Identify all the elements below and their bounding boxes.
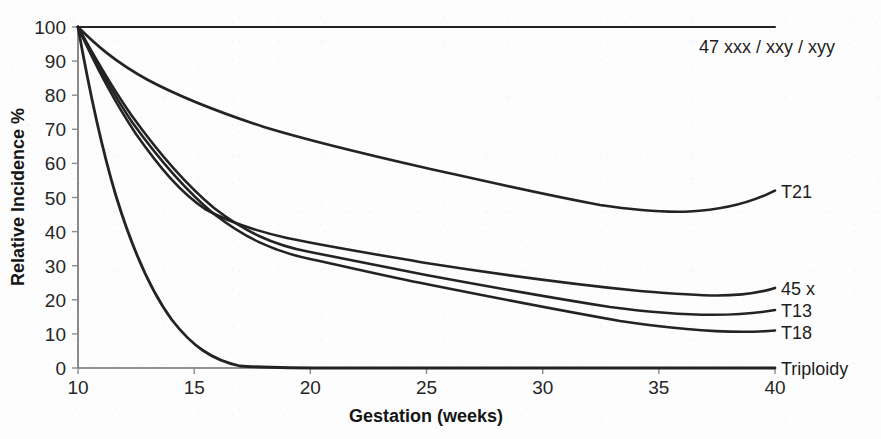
series-label-45x: 45 x (781, 279, 815, 299)
y-tick-label: 0 (55, 358, 66, 379)
y-tick-label: 100 (34, 17, 66, 38)
y-tick-label: 30 (45, 256, 66, 277)
y-tick-label: 60 (45, 153, 66, 174)
x-tick-label: 30 (532, 377, 553, 398)
x-tick-label: 20 (300, 377, 321, 398)
series-curves (78, 27, 775, 368)
curve-45-x (78, 27, 775, 295)
x-tick-label: 35 (648, 377, 669, 398)
series-label-47: 47 xxx / xxy / xyy (699, 37, 835, 57)
line-chart-svg: 0 10 20 30 40 50 60 70 80 90 100 10 15 2… (0, 0, 881, 439)
x-tick-label: 25 (416, 377, 437, 398)
y-axis-tick-labels: 0 10 20 30 40 50 60 70 80 90 100 (34, 17, 66, 379)
y-tick-label: 70 (45, 119, 66, 140)
x-tick-label: 10 (67, 377, 88, 398)
y-tick-label: 10 (45, 324, 66, 345)
series-label-triploidy: Triploidy (781, 359, 848, 379)
x-tick-label: 40 (764, 377, 785, 398)
series-label-t18: T18 (781, 323, 812, 343)
y-axis-title: Relative Incidence % (8, 108, 28, 286)
y-tick-label: 90 (45, 51, 66, 72)
series-label-t21: T21 (781, 182, 812, 202)
y-tick-label: 20 (45, 290, 66, 311)
chart-figure: 0 10 20 30 40 50 60 70 80 90 100 10 15 2… (0, 0, 881, 439)
x-axis-title: Gestation (weeks) (349, 406, 503, 426)
y-tick-label: 80 (45, 85, 66, 106)
y-axis-ticks (72, 27, 78, 368)
y-tick-label: 50 (45, 188, 66, 209)
series-label-t13: T13 (781, 301, 812, 321)
x-tick-label: 15 (184, 377, 205, 398)
curve-t13 (78, 27, 775, 315)
x-axis-tick-labels: 10 15 20 25 30 35 40 (67, 377, 785, 398)
curve-triploidy (78, 27, 775, 368)
y-tick-label: 40 (45, 222, 66, 243)
